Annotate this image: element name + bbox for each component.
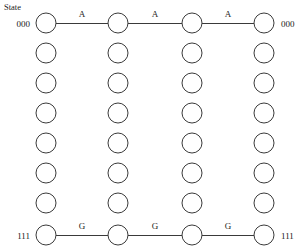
row-label-left-111: 111	[17, 231, 30, 241]
edges-layer	[56, 23, 254, 235]
trellis-node[interactable]	[108, 133, 128, 153]
nodes-layer	[36, 13, 274, 245]
trellis-node[interactable]	[36, 43, 56, 63]
trellis-node[interactable]	[182, 163, 202, 183]
trellis-node[interactable]	[182, 133, 202, 153]
edge-label-a: A	[152, 9, 159, 19]
edge-label-a: A	[79, 9, 86, 19]
trellis-diagram: AAAGGG 000111000111 State	[0, 0, 303, 248]
trellis-node[interactable]	[36, 133, 56, 153]
trellis-node[interactable]	[36, 73, 56, 93]
side-labels-layer: 000111000111	[17, 19, 296, 241]
edge-label-g: G	[152, 221, 159, 231]
trellis-node[interactable]	[108, 73, 128, 93]
trellis-node[interactable]	[36, 225, 56, 245]
edge-label-a: A	[225, 9, 232, 19]
trellis-canvas: AAAGGG 000111000111 State	[0, 0, 303, 248]
trellis-node[interactable]	[254, 13, 274, 33]
trellis-node[interactable]	[36, 13, 56, 33]
trellis-node[interactable]	[36, 163, 56, 183]
trellis-node[interactable]	[108, 163, 128, 183]
trellis-node[interactable]	[36, 193, 56, 213]
trellis-node[interactable]	[182, 193, 202, 213]
edge-label-g: G	[79, 221, 86, 231]
trellis-node[interactable]	[254, 103, 274, 123]
trellis-node[interactable]	[182, 43, 202, 63]
trellis-node[interactable]	[254, 43, 274, 63]
trellis-node[interactable]	[108, 225, 128, 245]
trellis-node[interactable]	[108, 13, 128, 33]
trellis-node[interactable]	[254, 193, 274, 213]
trellis-node[interactable]	[254, 163, 274, 183]
trellis-node[interactable]	[108, 193, 128, 213]
trellis-node[interactable]	[182, 103, 202, 123]
row-label-left-000: 000	[17, 19, 31, 29]
trellis-node[interactable]	[182, 225, 202, 245]
trellis-node[interactable]	[108, 43, 128, 63]
edge-labels-layer: AAAGGG	[79, 9, 232, 231]
trellis-node[interactable]	[254, 225, 274, 245]
trellis-node[interactable]	[182, 13, 202, 33]
trellis-node[interactable]	[182, 73, 202, 93]
trellis-node[interactable]	[36, 103, 56, 123]
state-caption: State	[4, 2, 21, 12]
row-label-right-000: 000	[281, 19, 295, 29]
edge-label-g: G	[225, 221, 232, 231]
trellis-node[interactable]	[108, 103, 128, 123]
trellis-node[interactable]	[254, 73, 274, 93]
trellis-node[interactable]	[254, 133, 274, 153]
row-label-right-111: 111	[281, 231, 294, 241]
